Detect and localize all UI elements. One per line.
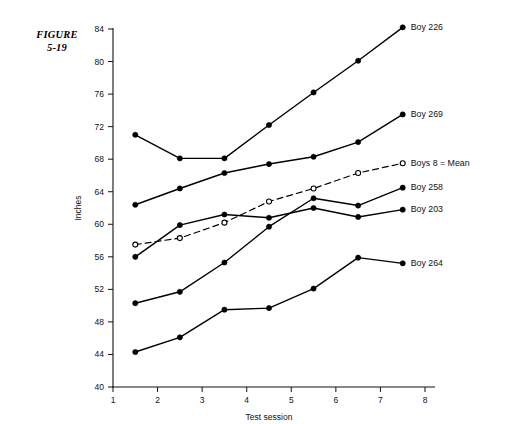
data-point xyxy=(222,170,227,175)
data-point xyxy=(266,215,271,220)
data-point xyxy=(266,122,271,127)
y-tick-label: 64 xyxy=(95,187,105,197)
data-point xyxy=(356,214,361,219)
data-point xyxy=(400,261,405,266)
y-tick-label: 68 xyxy=(95,154,105,164)
series-label-boy-226: Boy 226 xyxy=(411,22,443,32)
data-point xyxy=(311,205,316,210)
data-point xyxy=(356,255,361,260)
data-point xyxy=(266,305,271,310)
series-label-boy-203: Boy 203 xyxy=(411,204,443,214)
data-point xyxy=(400,112,405,117)
data-point xyxy=(133,202,138,207)
data-point xyxy=(133,254,138,259)
y-tick-label: 84 xyxy=(95,24,105,34)
data-point-open xyxy=(356,171,361,176)
data-point xyxy=(177,289,182,294)
series-label-boy-258: Boy 258 xyxy=(411,182,443,192)
series-label-boys-8-mean: Boys 8 = Mean xyxy=(411,158,470,168)
series-label-boy-269: Boy 269 xyxy=(411,109,443,119)
y-tick-label: 56 xyxy=(95,252,105,262)
data-point xyxy=(400,207,405,212)
y-tick-label: 60 xyxy=(95,219,105,229)
y-tick-label: 72 xyxy=(95,122,105,132)
y-tick-label: 44 xyxy=(95,349,105,359)
data-point xyxy=(311,90,316,95)
x-axis-title: Test session xyxy=(246,412,293,422)
data-point xyxy=(222,307,227,312)
data-point xyxy=(222,156,227,161)
data-point xyxy=(177,335,182,340)
data-point-open xyxy=(133,242,138,247)
data-point xyxy=(400,185,405,190)
data-point xyxy=(356,58,361,63)
data-point xyxy=(133,301,138,306)
data-point xyxy=(222,260,227,265)
data-point xyxy=(177,186,182,191)
data-point xyxy=(311,286,316,291)
x-tick-label: 8 xyxy=(423,395,428,405)
data-point xyxy=(177,222,182,227)
series-line-boy-258 xyxy=(135,188,402,304)
x-axis: 12345678 xyxy=(111,387,435,405)
y-tick-label: 48 xyxy=(95,317,105,327)
y-tick-label: 80 xyxy=(95,57,105,67)
data-point xyxy=(311,154,316,159)
x-tick-label: 2 xyxy=(155,395,160,405)
data-point-open xyxy=(267,199,272,204)
x-tick-label: 3 xyxy=(200,395,205,405)
x-tick-label: 7 xyxy=(378,395,383,405)
data-point xyxy=(311,196,316,201)
data-point xyxy=(266,161,271,166)
data-point xyxy=(266,224,271,229)
x-tick-label: 5 xyxy=(289,395,294,405)
data-point-open xyxy=(177,236,182,241)
data-point-open xyxy=(400,161,405,166)
series-line-boy-264 xyxy=(135,258,402,352)
data-point xyxy=(222,212,227,217)
series-layer xyxy=(133,25,406,355)
x-tick-label: 4 xyxy=(244,395,249,405)
line-chart: 404448525660646872768084 12345678 Boy 22… xyxy=(0,0,509,424)
y-tick-label: 40 xyxy=(95,382,105,392)
data-point xyxy=(177,156,182,161)
data-point xyxy=(400,25,405,30)
data-point-open xyxy=(222,220,227,225)
y-axis-title: Inches xyxy=(73,195,83,220)
series-line-boy-269 xyxy=(135,114,402,204)
y-axis: 404448525660646872768084 xyxy=(95,24,113,392)
data-point xyxy=(356,140,361,145)
data-point-open xyxy=(311,186,316,191)
figure-container: FIGURE 5-19 404448525660646872768084 123… xyxy=(0,0,509,424)
x-tick-label: 6 xyxy=(333,395,338,405)
series-label-boy-264: Boy 264 xyxy=(411,258,443,268)
data-point xyxy=(133,349,138,354)
data-point xyxy=(133,132,138,137)
y-tick-label: 76 xyxy=(95,89,105,99)
series-labels-layer: Boy 226Boy 269Boys 8 = MeanBoy 258Boy 20… xyxy=(411,22,470,268)
x-tick-label: 1 xyxy=(111,395,116,405)
data-point xyxy=(356,203,361,208)
y-tick-label: 52 xyxy=(95,284,105,294)
